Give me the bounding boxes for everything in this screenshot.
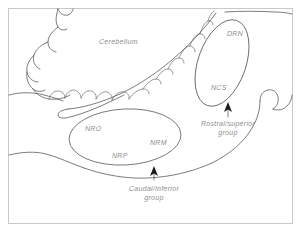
label-nrm: NRM [150,139,167,146]
label-rostral-superior-group: Rostral/superior group [192,119,264,137]
rostral-superior-nucleus-outline [185,13,260,114]
raphe-nuclei-figure: Cerebellum DRN NCS NRO NRM NRP Rostral/s… [0,0,301,232]
label-caudal-inferior-group-line1: Caudal/inferior [129,185,179,192]
label-rostral-superior-group-line1: Rostral/superior [201,120,255,127]
cerebellum-folium-c [33,42,48,69]
cerebellum-folia-detail-12 [200,21,213,34]
label-nrp: NRP [112,152,128,159]
brainstem-ventral-contour-right [84,163,212,178]
cerebellum-folia-detail-9 [168,58,184,69]
cerebellum-folia-detail-5 [112,92,129,100]
label-nro: NRO [85,125,101,132]
label-caudal-inferior-group-line2: group [144,194,163,201]
rostral-superior-arrow [224,102,232,117]
cerebellum-folia-detail-3 [81,91,96,99]
cerebellum-folium-b [48,27,58,52]
cerebellar-peduncle-upper [68,13,216,109]
label-drn: DRN [227,30,243,37]
brainstem-superior-contour-right [273,95,292,110]
brainstem-roof-right [225,11,292,14]
brainstem-ventral-contour-left [9,152,84,168]
brainstem-dorsal-contour-left [9,93,63,101]
cerebellum-folia-detail-7 [143,79,161,89]
cerebellum-folium-d [27,55,38,82]
cerebellum-superior-margin [58,9,73,15]
cerebellum-folia-detail-4 [96,92,112,100]
cerebellum-folia-detail-6 [129,89,149,99]
label-rostral-superior-group-line2: group [218,129,237,136]
label-cerebellum: Cerebellum [99,38,138,45]
brainstem-dorsal-contour-right [260,90,278,109]
label-caudal-inferior-group: Caudal/inferior group [118,184,190,202]
label-ncs: NCS [211,84,227,91]
cerebellar-peduncle-lower [58,95,124,118]
